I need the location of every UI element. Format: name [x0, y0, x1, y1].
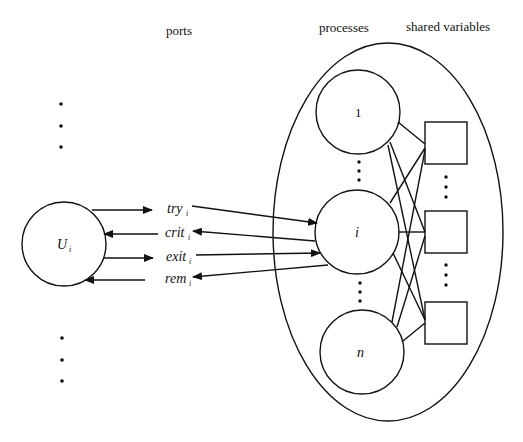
system-boundary-ellipse [273, 43, 503, 421]
process-node-i[interactable]: i [315, 190, 399, 274]
process-node-1[interactable]: 1 [316, 70, 400, 154]
port-try: try i [167, 201, 188, 218]
processes-ellipsis-upper [357, 160, 360, 181]
svg-text:try: try [167, 201, 183, 216]
shared-variable-box-2[interactable] [425, 211, 467, 253]
process-label-1: 1 [355, 105, 362, 120]
port-exit: exit i [166, 249, 191, 266]
shared-variable-box-3[interactable] [425, 302, 467, 344]
svg-text:exit: exit [166, 249, 187, 264]
user-label: U [57, 237, 68, 252]
user-node[interactable]: U i [22, 202, 106, 286]
try-arrow-to-process [192, 206, 317, 223]
process-label-i: i [355, 225, 359, 240]
shared-variables-ellipsis-upper [444, 175, 447, 198]
shared-variable-box-1[interactable] [425, 122, 467, 164]
process-label-n: n [357, 345, 364, 360]
shared-variables-ellipsis-lower [444, 263, 447, 286]
svg-text:rem: rem [165, 271, 186, 286]
port-crit: crit i [165, 225, 190, 242]
process-variable-connections [388, 122, 425, 341]
crit-arrow-from-process [193, 231, 315, 241]
users-ellipsis-bottom [60, 336, 64, 383]
ports-header: ports [166, 23, 192, 38]
exit-arrow-to-process [196, 253, 320, 255]
svg-text:i: i [186, 209, 188, 218]
svg-text:crit: crit [165, 225, 186, 240]
user-subscript: i [69, 245, 71, 254]
rem-arrow-from-process [193, 265, 328, 277]
shared-variables-header: shared variables [406, 19, 490, 34]
svg-text:i: i [189, 257, 191, 266]
processes-header: processes [319, 20, 369, 35]
port-rem: rem i [165, 271, 191, 288]
diagram-canvas: ports processes shared variables U i try… [0, 0, 523, 442]
users-ellipsis-top [59, 102, 63, 149]
processes-ellipsis-lower [358, 281, 361, 302]
process-node-n[interactable]: n [320, 310, 404, 394]
svg-text:i: i [188, 233, 190, 242]
svg-text:i: i [189, 279, 191, 288]
